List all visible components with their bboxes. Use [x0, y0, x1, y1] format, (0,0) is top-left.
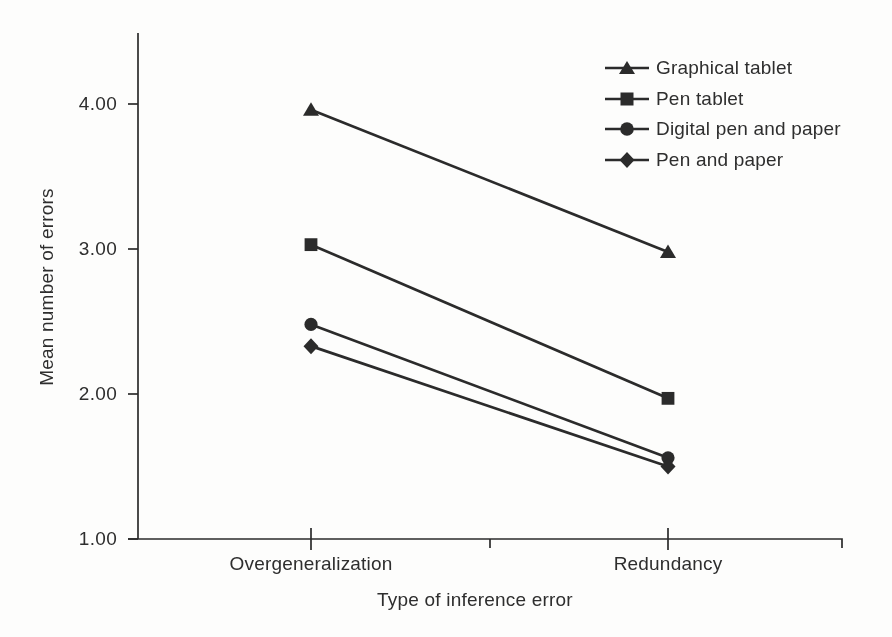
data-point-triangle	[303, 102, 319, 116]
legend-label: Digital pen and paper	[656, 118, 841, 140]
y-tick-label: 1.00	[55, 528, 117, 550]
square-marker-icon	[605, 89, 649, 109]
legend-item-pen-and-paper: Pen and paper	[605, 145, 841, 176]
series-line-digital-pen-and-paper	[311, 324, 668, 457]
data-point-square	[662, 392, 675, 405]
scanned-line-chart-figure: 4.00 3.00 2.00 1.00 Overgeneralization R…	[0, 0, 892, 637]
y-tick-label: 3.00	[55, 238, 117, 260]
data-point-triangle	[660, 244, 676, 258]
y-axis-title: Mean number of errors	[36, 188, 58, 385]
diamond-marker-icon	[605, 150, 649, 170]
data-point-circle	[304, 318, 317, 331]
x-category-label-redundancy: Redundancy	[614, 553, 723, 575]
x-axis-title: Type of inference error	[377, 589, 573, 611]
legend-label: Pen and paper	[656, 149, 783, 171]
triangle-marker-icon	[605, 58, 649, 78]
legend: Graphical tablet Pen tablet Digital pen …	[605, 53, 841, 175]
legend-item-digital-pen-and-paper: Digital pen and paper	[605, 114, 841, 145]
y-tick-label: 2.00	[55, 383, 117, 405]
series-line-pen-tablet	[311, 245, 668, 399]
x-category-label-overgeneralization: Overgeneralization	[229, 553, 392, 575]
data-point-square	[305, 238, 318, 251]
data-point-diamond	[304, 338, 319, 354]
legend-item-pen-tablet: Pen tablet	[605, 84, 841, 115]
legend-label: Graphical tablet	[656, 57, 792, 79]
x-axis-line	[128, 539, 842, 548]
circle-marker-icon	[605, 119, 649, 139]
legend-item-graphical-tablet: Graphical tablet	[605, 53, 841, 84]
y-tick-label: 4.00	[55, 93, 117, 115]
legend-label: Pen tablet	[656, 88, 744, 110]
series-line-pen-and-paper	[311, 346, 668, 466]
